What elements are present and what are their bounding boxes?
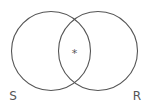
venn-diagram: * S R	[0, 0, 147, 104]
set-r-label: R	[133, 89, 141, 103]
set-s-circle	[12, 12, 91, 91]
set-s-label: S	[9, 89, 17, 103]
intersection-marker: *	[72, 47, 78, 60]
set-r-circle	[59, 12, 138, 91]
